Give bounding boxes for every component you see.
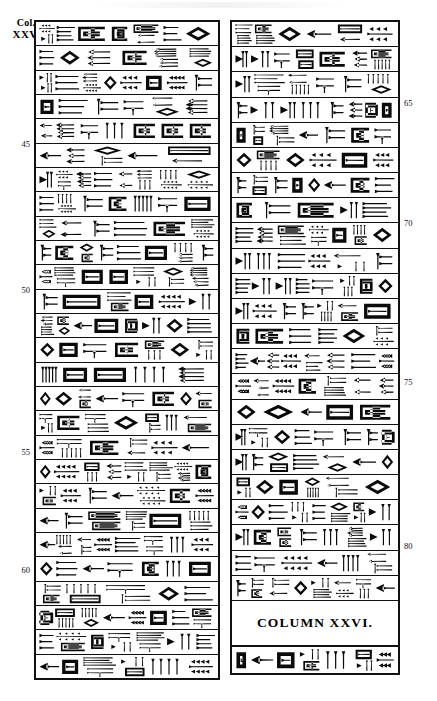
cuneiform-text-line	[36, 144, 218, 168]
cuneiform-line	[233, 425, 397, 449]
cuneiform-text-line	[36, 95, 218, 119]
cuneiform-line	[233, 500, 397, 524]
cuneiform-text-line	[232, 299, 398, 324]
cuneiform-text-line	[232, 349, 398, 374]
cuneiform-text-line	[36, 582, 218, 606]
cuneiform-line	[233, 47, 397, 71]
cuneiform-text-line	[232, 551, 398, 576]
column-caption-text: COLUMN XXVI.	[257, 615, 373, 631]
cuneiform-line	[233, 475, 397, 499]
cuneiform-text-line	[232, 647, 398, 673]
cuneiform-line	[233, 324, 397, 348]
line-number: 50	[4, 285, 30, 295]
cuneiform-line	[233, 349, 397, 373]
cuneiform-rows-left	[36, 22, 218, 678]
cuneiform-text-line	[36, 338, 218, 362]
cuneiform-text-line	[232, 450, 398, 475]
cuneiform-plate: Col. XXV. COLUMN XXVI. 4550556065707580	[0, 0, 437, 701]
cuneiform-text-line	[36, 71, 218, 95]
cuneiform-line	[233, 400, 397, 424]
cuneiform-line	[233, 198, 397, 222]
cuneiform-text-line	[232, 72, 398, 97]
cuneiform-line	[37, 314, 217, 337]
cuneiform-line	[233, 274, 397, 298]
cuneiform-line	[37, 484, 217, 507]
cuneiform-line	[37, 582, 217, 605]
cuneiform-line	[37, 119, 217, 142]
cuneiform-text-line	[36, 436, 218, 460]
cuneiform-text-line	[232, 525, 398, 550]
line-number: 75	[404, 377, 430, 387]
line-number: 60	[4, 565, 30, 575]
cuneiform-text-line	[232, 148, 398, 173]
cuneiform-panel-left	[34, 20, 220, 680]
cuneiform-text-line	[232, 47, 398, 72]
cuneiform-text-line	[36, 557, 218, 581]
cuneiform-text-line	[36, 265, 218, 289]
cuneiform-text-line	[36, 22, 218, 46]
cuneiform-rows-right	[232, 22, 398, 673]
cuneiform-line	[233, 249, 397, 273]
cuneiform-line	[233, 98, 397, 122]
cuneiform-text-line	[36, 290, 218, 314]
cuneiform-line	[233, 22, 397, 46]
cuneiform-text-line	[232, 173, 398, 198]
cuneiform-text-line	[36, 460, 218, 484]
cuneiform-line	[37, 241, 217, 264]
cuneiform-line	[37, 509, 217, 532]
cuneiform-panel-right	[230, 20, 400, 675]
line-number: 80	[404, 541, 430, 551]
cuneiform-line	[233, 72, 397, 96]
line-number: 45	[4, 139, 30, 149]
cuneiform-text-line	[36, 630, 218, 654]
cuneiform-line	[233, 551, 397, 575]
cuneiform-text-line	[232, 223, 398, 248]
cuneiform-text-line	[232, 576, 398, 601]
cuneiform-line	[37, 557, 217, 580]
cuneiform-line	[37, 46, 217, 69]
cuneiform-line	[37, 411, 217, 434]
cuneiform-text-line	[36, 192, 218, 216]
cuneiform-text-line	[232, 198, 398, 223]
cuneiform-line	[233, 525, 397, 549]
scan-artifact	[90, 2, 350, 8]
cuneiform-text-line	[36, 119, 218, 143]
line-number: 55	[4, 447, 30, 457]
cuneiform-line	[37, 606, 217, 629]
cuneiform-line	[37, 533, 217, 556]
cuneiform-line	[37, 217, 217, 240]
cuneiform-text-line	[36, 606, 218, 630]
cuneiform-line	[233, 223, 397, 247]
cuneiform-text-line	[36, 655, 218, 678]
cuneiform-text-line	[36, 484, 218, 508]
cuneiform-line	[37, 192, 217, 215]
cuneiform-text-line	[36, 363, 218, 387]
cuneiform-line	[233, 299, 397, 323]
cuneiform-text-line	[36, 46, 218, 70]
cuneiform-text-line	[232, 500, 398, 525]
cuneiform-text-line	[36, 314, 218, 338]
cuneiform-line	[37, 265, 217, 288]
cuneiform-text-line	[232, 324, 398, 349]
cuneiform-line	[37, 290, 217, 313]
cuneiform-text-line	[232, 123, 398, 148]
cuneiform-text-line	[36, 387, 218, 411]
cuneiform-text-line	[36, 509, 218, 533]
cuneiform-text-line	[232, 22, 398, 47]
cuneiform-text-line	[232, 475, 398, 500]
cuneiform-line	[37, 144, 217, 167]
cuneiform-text-line	[232, 98, 398, 123]
cuneiform-line	[37, 436, 217, 459]
cuneiform-line	[37, 655, 217, 678]
cuneiform-line	[233, 647, 397, 673]
cuneiform-text-line	[232, 274, 398, 299]
cuneiform-text-line	[36, 217, 218, 241]
cuneiform-line	[37, 387, 217, 410]
cuneiform-line	[37, 338, 217, 361]
cuneiform-text-line	[232, 249, 398, 274]
cuneiform-line	[233, 123, 397, 147]
cuneiform-text-line	[36, 411, 218, 435]
cuneiform-line	[233, 374, 397, 398]
cuneiform-text-line	[232, 374, 398, 399]
cuneiform-line	[233, 576, 397, 600]
